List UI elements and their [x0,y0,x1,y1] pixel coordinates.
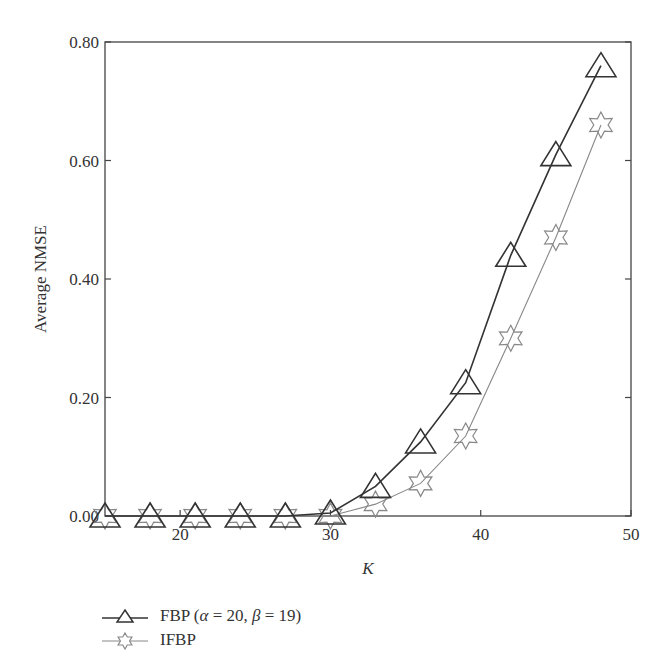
y-axis-title: Average NMSE [31,225,50,333]
triangle-marker [586,53,616,77]
legend-label-ifbp: IFBP [160,630,196,650]
plot-series [90,53,616,529]
series-ifbp [94,112,613,529]
y-tick-label: 0.80 [69,33,99,52]
triangle-marker [180,503,210,527]
legend: FBP (α = 20, β = 19) IFBP [100,604,301,652]
triangle-marker [135,503,165,527]
legend-item-fbp: FBP (α = 20, β = 19) [100,604,301,628]
x-tick-label: 20 [172,525,189,544]
triangle-marker-icon [100,606,150,626]
plot-axes: 0.000.200.400.600.8020304050KAverage NMS… [31,33,640,578]
legend-item-ifbp: IFBP [100,628,301,652]
triangle-marker [225,503,255,527]
x-tick-label: 40 [472,525,489,544]
legend-label-fbp: FBP (α = 20, β = 19) [160,606,301,626]
nmse-line-chart: 0.000.200.400.600.8020304050KAverage NMS… [0,0,670,600]
x-axis-title: K [361,559,375,578]
x-tick-label: 50 [623,525,640,544]
y-tick-label: 0.60 [69,152,99,171]
hexagram-marker-icon [100,630,150,650]
plot-frame [105,42,631,516]
y-tick-label: 0.40 [69,270,99,289]
y-tick-label: 0.20 [69,389,99,408]
series-fbp [90,53,616,527]
